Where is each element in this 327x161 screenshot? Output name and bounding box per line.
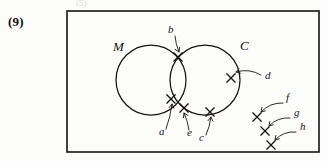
element-label-g: g <box>294 106 300 118</box>
set-circles-group <box>116 45 240 115</box>
element-label-a: a <box>159 125 165 137</box>
set-labels-group: MC <box>112 38 249 54</box>
element-label-d: d <box>265 69 271 81</box>
set-label-C: C <box>240 38 249 53</box>
element-label-h: h <box>300 120 306 132</box>
venn-diagram-figure: MC abcdefgh <box>0 0 327 161</box>
element-label-b: b <box>168 23 174 35</box>
element-cross-a <box>167 95 175 103</box>
set-circle-M <box>116 45 186 115</box>
element-cross-f <box>253 113 261 121</box>
element-cross-g <box>261 127 269 135</box>
element-label-c: c <box>199 131 204 143</box>
universal-set-rectangle <box>67 11 319 152</box>
element-cross-d <box>227 74 235 82</box>
element-labels-group: abcdefgh <box>159 23 306 143</box>
element-cross-e <box>180 104 188 112</box>
figure-page: (5) (9) MC abcdefgh <box>0 0 327 161</box>
element-label-e: e <box>187 126 192 138</box>
set-label-M: M <box>112 39 125 54</box>
element-cross-b <box>174 53 182 61</box>
element-cross-h <box>267 141 275 149</box>
element-label-f: f <box>286 91 291 103</box>
